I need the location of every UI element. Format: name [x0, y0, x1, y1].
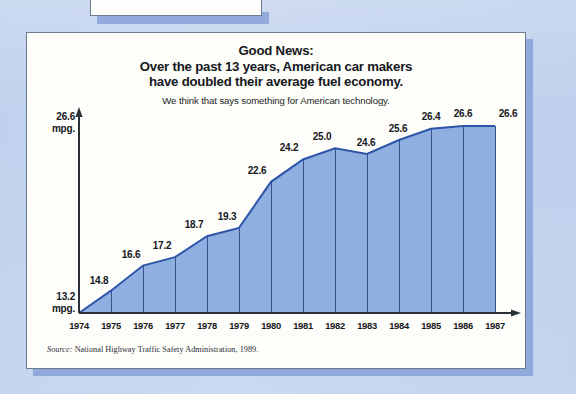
- data-label-1980: 22.6: [248, 165, 267, 176]
- data-label-1985: 26.4: [422, 111, 441, 122]
- data-label-1979: 19.3: [218, 211, 237, 222]
- chart-card: Good News: Over the past 13 years, Ameri…: [26, 32, 526, 369]
- x-tick-1978: 1978: [197, 320, 217, 331]
- top-panel-cutoff: [90, 0, 262, 16]
- x-tick-1987: 1987: [485, 320, 505, 331]
- x-tick-1982: 1982: [325, 320, 345, 331]
- x-tick-1981: 1981: [293, 320, 313, 331]
- x-tick-1975: 1975: [101, 320, 121, 331]
- data-label-1975: 14.8: [90, 275, 109, 286]
- data-label-1981: 24.2: [280, 142, 299, 153]
- data-label-1983: 24.6: [357, 137, 376, 148]
- source-prefix: Source:: [47, 345, 73, 354]
- data-label-1987: 26.6: [499, 108, 518, 119]
- x-tick-1976: 1976: [133, 320, 153, 331]
- x-tick-1985: 1985: [421, 320, 441, 331]
- x-tick-1983: 1983: [357, 320, 377, 331]
- x-tick-1974: 1974: [69, 320, 89, 331]
- source-text: National Highway Traffic Safety Administ…: [75, 345, 259, 354]
- x-tick-1979: 1979: [229, 320, 249, 331]
- x-tick-1986: 1986: [453, 320, 473, 331]
- x-tick-1984: 1984: [389, 320, 409, 331]
- data-label-1976: 16.6: [122, 249, 141, 260]
- source-note: Source: National Highway Traffic Safety …: [47, 345, 258, 354]
- x-tick-1980: 1980: [261, 320, 281, 331]
- x-tick-1977: 1977: [165, 320, 185, 331]
- data-label-1977: 17.2: [153, 240, 172, 251]
- data-label-1982: 25.0: [313, 131, 332, 142]
- data-label-1986: 26.6: [454, 108, 473, 119]
- data-label-1984: 25.6: [389, 123, 408, 134]
- data-label-1978: 18.7: [185, 219, 204, 230]
